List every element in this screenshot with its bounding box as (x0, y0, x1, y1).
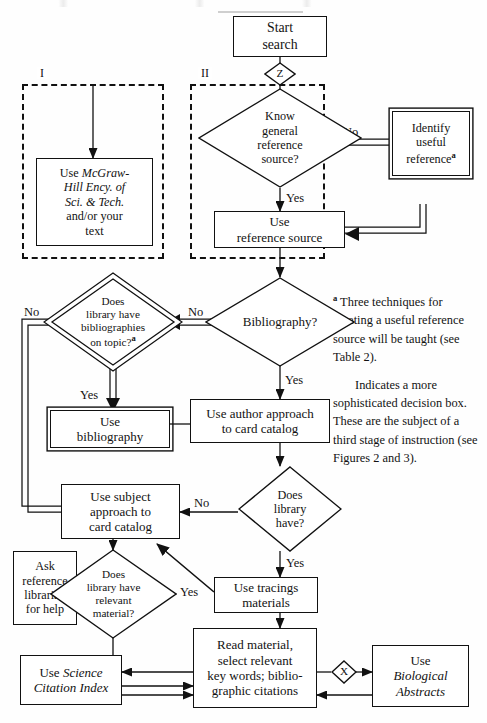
node-read-material[interactable]: Read material, select relevant key words… (193, 628, 317, 708)
node-use-reference-source-label: Use reference source (234, 214, 326, 245)
connector-x-label: X (338, 665, 350, 678)
bio-line2: Biological (393, 668, 447, 683)
node-bibliography-question-label: Bibliography? (241, 314, 319, 329)
connector-x[interactable]: X (331, 660, 357, 684)
edge-label-library-bibs-yes: Yes (80, 389, 98, 402)
footnote-a: a Three techniques for locating a useful… (333, 292, 483, 367)
node-use-mcgraw-hill[interactable]: Use McGraw- Hill Ency. of Sci. & Tech. a… (36, 158, 153, 246)
footnote-marker-a-1: a (452, 150, 456, 160)
sci-line1-italic: Science (63, 665, 103, 680)
mcgraw-line5: text (85, 224, 103, 238)
node-use-reference-source[interactable]: Use reference source (214, 211, 345, 248)
node-use-bibliography[interactable]: Use bibliography (50, 410, 170, 448)
node-does-library-have-question-label: Does library have? (272, 488, 309, 531)
mcgraw-line1-italic: McGraw- (82, 166, 129, 180)
edge-label-does-library-have-no: No (194, 497, 209, 510)
node-library-bibliographies-question-label: Does library have bibliographies on topi… (79, 295, 147, 349)
node-identify-useful-reference[interactable]: Identify useful referencea (392, 111, 470, 176)
sci-line1: Use (39, 665, 62, 680)
footnote-b: Indicates a more sophisticated decision … (333, 376, 483, 468)
region-I-label: I (37, 67, 47, 79)
edge-label-bibliography-yes: Yes (285, 374, 303, 387)
node-use-tracings-materials[interactable]: Use tracings materials (214, 577, 318, 613)
node-identify-useful-reference-label: Identify useful referencea (403, 121, 459, 166)
node-library-bibliographies-question[interactable]: Does library have bibliographies on topi… (43, 272, 183, 372)
mcgraw-line1: Use (60, 166, 82, 180)
bio-line3: Abstracts (396, 684, 445, 699)
node-use-bibliography-label: Use bibliography (74, 414, 146, 445)
node-know-general-reference-label: Know general reference source? (255, 109, 304, 166)
edge-label-know-yes: Yes (286, 192, 304, 205)
node-author-approach-label: Use author approach to card catalog (203, 406, 317, 437)
node-does-library-have-question[interactable]: Does library have? (238, 466, 342, 552)
clipped-text-remnant (0, 0, 487, 7)
footnotes-block: a Three techniques for locating a useful… (333, 292, 483, 476)
clipped-rule (218, 11, 303, 13)
node-science-citation-index-label: Use Science Citation Index (31, 665, 112, 696)
mcgraw-line3: Sci. & Tech. (65, 195, 124, 209)
node-use-mcgraw-hill-label: Use McGraw- Hill Ency. of Sci. & Tech. a… (57, 166, 132, 238)
connector-z-label: Z (275, 67, 286, 80)
node-biological-abstracts-label: Use Biological Abstracts (390, 653, 450, 699)
node-science-citation-index[interactable]: Use Science Citation Index (20, 655, 122, 705)
footnote-marker-a-2: a (132, 333, 136, 343)
node-biological-abstracts[interactable]: Use Biological Abstracts (372, 645, 469, 707)
node-start-search-label: Start search (259, 20, 300, 53)
node-subject-approach-label: Use subject approach to card catalog (86, 489, 155, 535)
node-relevant-material-question[interactable]: Does library have relevant material? (50, 549, 177, 639)
edge-label-library-bibs-no: No (24, 306, 39, 319)
node-bibliography-question[interactable]: Bibliography? (205, 277, 355, 367)
flowchart-canvas: I II Start search Z Know general referen… (0, 0, 487, 723)
identify-useful-text: Identify useful reference (406, 121, 451, 166)
node-author-approach[interactable]: Use author approach to card catalog (190, 399, 330, 443)
node-use-tracings-materials-label: Use tracings materials (231, 580, 302, 611)
sci-line2: Citation Index (34, 680, 109, 695)
mcgraw-line4: and/or your (66, 209, 123, 223)
node-relevant-material-question-label: Does library have relevant material? (85, 568, 143, 620)
bio-line1: Use (410, 653, 430, 668)
edge-label-bibliography-no: No (188, 306, 203, 319)
mcgraw-line2: Hill Ency. of (64, 180, 125, 194)
node-know-general-reference[interactable]: Know general reference source? (198, 88, 362, 188)
edge-label-does-library-have-yes: Yes (286, 557, 304, 570)
edge-label-relevant-yes: Yes (180, 586, 198, 599)
node-start-search[interactable]: Start search (233, 16, 327, 57)
connector-z[interactable]: Z (264, 62, 296, 86)
region-II-label: II (198, 67, 212, 79)
node-read-material-label: Read material, select relevant key words… (204, 637, 305, 698)
node-subject-approach[interactable]: Use subject approach to card catalog (61, 484, 180, 539)
